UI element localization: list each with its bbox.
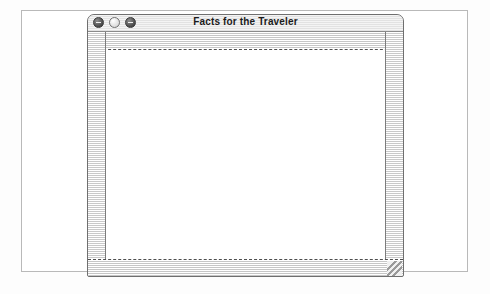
window-body [88, 32, 403, 277]
window-title-bar[interactable]: Facts for the Traveler [88, 15, 403, 32]
resize-grip-icon[interactable] [387, 261, 402, 276]
application-window: Facts for the Traveler [87, 14, 404, 277]
scrollbar-track-bottom[interactable] [88, 259, 403, 277]
scanned-page-canvas: Facts for the Traveler [0, 0, 490, 294]
document-content-area[interactable] [107, 50, 384, 259]
scrollbar-track-left[interactable] [88, 32, 106, 277]
scrollbar-track-right[interactable] [385, 32, 403, 277]
scrollbar-track-top[interactable] [88, 32, 403, 50]
window-title-text: Facts for the Traveler [88, 16, 403, 27]
